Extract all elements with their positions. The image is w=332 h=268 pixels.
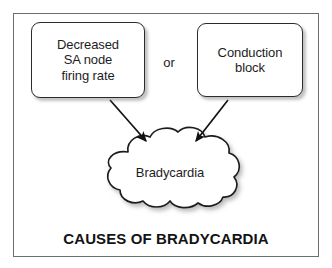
arrow-decreased-sa-node-to-bradycardia: [110, 100, 146, 141]
connector-label-or: or: [146, 52, 192, 72]
cloud-outcome-shape: [108, 127, 240, 207]
figure-causes-of-bradycardia: Decreased SA node firing rate Conduction…: [0, 0, 332, 268]
node-decreased-sa-node-firing-rate: Decreased SA node firing rate: [31, 22, 145, 98]
node-label: Conduction block: [218, 45, 283, 76]
node-label: Decreased SA node firing rate: [57, 37, 119, 84]
arrow-conduction-block-to-bradycardia: [196, 100, 228, 141]
figure-caption: CAUSES OF BRADYCARDIA: [13, 230, 319, 247]
node-conduction-block: Conduction block: [197, 23, 303, 97]
